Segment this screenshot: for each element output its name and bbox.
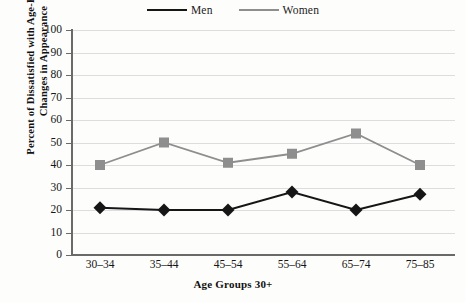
- data-point-square: [223, 158, 233, 168]
- line-chart: Men Women Percent of Dissatisfied with A…: [0, 0, 466, 302]
- data-point-diamond: [350, 204, 363, 217]
- y-tick-mark: [66, 120, 72, 121]
- data-point-diamond: [222, 204, 235, 217]
- y-tick-mark: [66, 233, 72, 234]
- data-point-diamond: [94, 201, 107, 214]
- y-tick-mark: [66, 75, 72, 76]
- series-line: [100, 192, 420, 210]
- data-point-diamond: [158, 204, 171, 217]
- data-point-square: [159, 138, 169, 148]
- x-tick-label: 65–74: [342, 258, 371, 270]
- data-point-square: [415, 160, 425, 170]
- y-tick-mark: [66, 53, 72, 54]
- y-tick-mark: [66, 143, 72, 144]
- series-line: [100, 134, 420, 166]
- data-point-diamond: [414, 188, 427, 201]
- data-point-diamond: [286, 186, 299, 199]
- x-tick-label: 35–44: [150, 258, 179, 270]
- x-tick-label: 75–85: [406, 258, 435, 270]
- y-tick-mark: [66, 255, 72, 256]
- y-tick-mark: [66, 30, 72, 31]
- y-tick-mark: [66, 188, 72, 189]
- data-point-square: [287, 149, 297, 159]
- series-women: [95, 129, 425, 171]
- y-tick-mark: [66, 210, 72, 211]
- x-axis-tick-labels: 30–3435–4445–5455–6465–7475–85: [0, 258, 466, 274]
- y-tick-mark: [66, 165, 72, 166]
- x-tick-label: 45–54: [214, 258, 243, 270]
- series-men: [94, 186, 427, 217]
- data-point-square: [95, 160, 105, 170]
- x-axis-title: Age Groups 30+: [0, 278, 466, 290]
- y-tick-mark: [66, 98, 72, 99]
- x-tick-label: 55–64: [278, 258, 307, 270]
- data-point-square: [351, 129, 361, 139]
- series-layer: [0, 0, 466, 302]
- x-tick-label: 30–34: [86, 258, 115, 270]
